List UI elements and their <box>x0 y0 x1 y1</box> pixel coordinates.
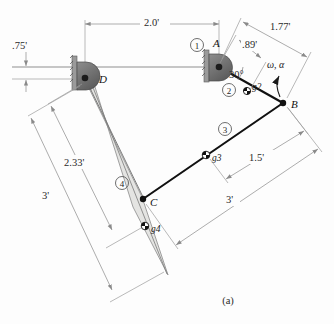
omega-alpha-label: ω, α <box>267 59 285 70</box>
ext-233-end <box>106 228 141 248</box>
dimension-crank-length: 1.77' <box>222 18 311 98</box>
g2-quad-1 <box>243 87 247 91</box>
dim-label-089: .89' <box>242 39 257 50</box>
link-4-number: 4 <box>120 179 125 189</box>
dim-label-3rocker: 3' <box>42 190 49 201</box>
link-badge-3: 3 <box>219 123 232 136</box>
g2-quad-2 <box>247 91 251 95</box>
input-motion-annotation: ω, α <box>267 59 285 97</box>
joint-B-dot <box>280 100 286 106</box>
g3-quad-2 <box>206 155 210 159</box>
figure-caption: (a) <box>222 295 234 307</box>
angle-crank-30: 30° <box>229 67 244 80</box>
dimension-ground-length: 2.0' <box>85 16 219 63</box>
cg-label-g4: g4 <box>151 224 161 234</box>
ext-233-start <box>48 84 82 104</box>
pivot-D-bearing <box>77 62 100 90</box>
figure-container: 2.0' .75' 1 D <box>0 0 334 324</box>
link-badge-1: 1 <box>191 39 204 52</box>
rocker-link-group <box>85 80 168 275</box>
dim-label-233: 2.33' <box>64 157 84 168</box>
dim-label-15: 1.5' <box>249 152 264 163</box>
dim-label-075: .75' <box>12 40 27 51</box>
ext-3rocker-end <box>110 272 164 302</box>
ext-177-end <box>287 52 311 98</box>
joint-A-label: A <box>212 37 220 49</box>
g3-quad-1 <box>202 151 206 155</box>
dim-label-2ft: 2.0' <box>144 17 159 28</box>
dimension-crank-offset: .75' <box>12 40 27 92</box>
omega-alpha-arrow <box>277 76 280 97</box>
linkage-diagram: 2.0' .75' 1 D <box>0 0 334 324</box>
joint-D-pivot: D <box>70 55 107 90</box>
pivot-A-center <box>216 64 223 71</box>
cg-label-g3: g3 <box>212 153 222 163</box>
link-1-number: 1 <box>195 41 200 51</box>
dim-label-3coupler: 3' <box>226 194 233 205</box>
ext-177-start <box>222 18 241 59</box>
link-2-number: 2 <box>227 86 232 96</box>
ext-3coupler-end <box>288 108 322 152</box>
dim-label-177: 1.77' <box>270 21 290 32</box>
ground-link-group <box>12 67 219 79</box>
pivot-D-center <box>82 75 89 82</box>
dimension-rocker-length: 3' <box>28 86 164 302</box>
rocker-link-edge-left <box>92 85 167 274</box>
joint-C-label: C <box>150 196 158 208</box>
cg-label-g2: g2 <box>252 82 262 92</box>
joint-B: B <box>280 98 298 110</box>
cg-marker-g2: g2 <box>243 82 261 95</box>
dim-line-3rocker <box>31 118 112 290</box>
link-badge-2: 2 <box>223 84 236 97</box>
joint-C-dot <box>140 196 146 202</box>
joint-B-label: B <box>291 98 298 110</box>
link-3-number: 3 <box>223 125 228 135</box>
angle-label-30: 30° <box>229 69 244 80</box>
joint-D-label: D <box>98 73 107 85</box>
joint-A-pivot: A <box>202 37 233 82</box>
cg-marker-g4: g4 <box>141 222 161 234</box>
